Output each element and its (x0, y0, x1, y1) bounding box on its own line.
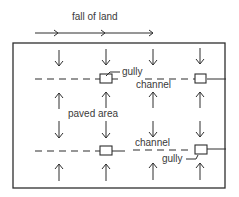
gully-icon (195, 145, 207, 154)
up-arrows-row2 (55, 163, 204, 181)
arrow-up-icon (196, 92, 204, 108)
arrow-up-icon (102, 164, 110, 181)
paved-area-boundary (13, 43, 225, 188)
arrow-up-icon (196, 163, 204, 180)
arrow-up-icon (55, 164, 63, 181)
gully-label-top: gully (122, 66, 143, 77)
paved-area-label: paved area (68, 108, 118, 119)
arrow-down-icon (102, 121, 110, 138)
channel-label-bottom: channel (135, 137, 170, 148)
arrow-down-icon (55, 121, 63, 138)
gully-icon (100, 146, 112, 155)
arrow-up-icon (55, 93, 63, 109)
arrow-down-icon (196, 48, 204, 64)
arrow-down-icon (149, 49, 157, 65)
channel-2 (35, 145, 226, 159)
gully-icon (195, 74, 206, 83)
channel-label-top: channel (136, 79, 171, 90)
arrow-up-icon (149, 92, 157, 108)
arrow-down-icon (149, 121, 157, 137)
leader-line (186, 155, 198, 159)
fall-of-land-arrow-icon (35, 30, 153, 36)
gully-label-bottom: gully (162, 153, 183, 164)
arrow-down-icon (102, 49, 110, 65)
arrow-up-icon (102, 92, 110, 108)
up-arrows-row1 (55, 92, 204, 109)
arrow-down-icon (55, 50, 63, 66)
arrow-up-icon (149, 163, 157, 180)
fall-of-land-label: fall of land (72, 11, 118, 22)
down-arrows-row1 (55, 48, 204, 66)
drainage-diagram: fall of land gully channel paved area (0, 0, 239, 197)
down-arrows-row2 (55, 121, 204, 138)
arrow-down-icon (196, 121, 204, 137)
